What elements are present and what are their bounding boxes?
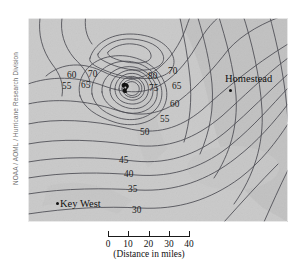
contour-label-45: 45 (119, 156, 128, 165)
map-canvas (28, 18, 288, 222)
scale-tick-20 (149, 231, 150, 237)
contour-label-55-west: 55 (62, 82, 71, 91)
scale-label-0: 0 (106, 239, 111, 249)
scale-tick-0 (108, 231, 109, 237)
contour-label-60-east: 60 (170, 100, 179, 109)
scale-bar (108, 231, 190, 239)
scale-caption: (Distance in miles) (88, 249, 210, 259)
contour-label-50: 50 (140, 128, 149, 137)
contour-map-figure: NOAA / AOML / Hurricane Research Divisio… (0, 0, 302, 261)
scale-label-10: 10 (123, 239, 132, 249)
scale-tick-10 (128, 231, 129, 237)
scale-label-20: 20 (144, 239, 153, 249)
contour-label-30: 30 (132, 206, 141, 215)
scale-tick-30 (169, 231, 170, 237)
contour-label-35: 35 (128, 185, 137, 194)
contour-lines-svg (28, 18, 288, 222)
contour-label-60-west: 60 (67, 71, 76, 80)
source-credit-label: NOAA / AOML / Hurricane Research Divisio… (12, 39, 19, 199)
contour-label-65-east: 65 (172, 82, 181, 91)
contour-label-70-west: 70 (88, 70, 97, 79)
scale-label-30: 30 (164, 239, 173, 249)
place-label-homestead: Homestead (225, 74, 272, 85)
contour-label-80: 80 (148, 72, 157, 81)
scale-tick-40 (189, 231, 190, 237)
contour-label-70-east: 70 (168, 67, 177, 76)
contour-label-65-west: 65 (81, 81, 90, 90)
scale-label-40: 40 (184, 239, 193, 249)
place-label-key-west: Key West (60, 199, 101, 210)
contour-label-55-east: 55 (160, 115, 169, 124)
contour-label-75: 75 (149, 84, 158, 93)
contour-label-40: 40 (124, 170, 133, 179)
